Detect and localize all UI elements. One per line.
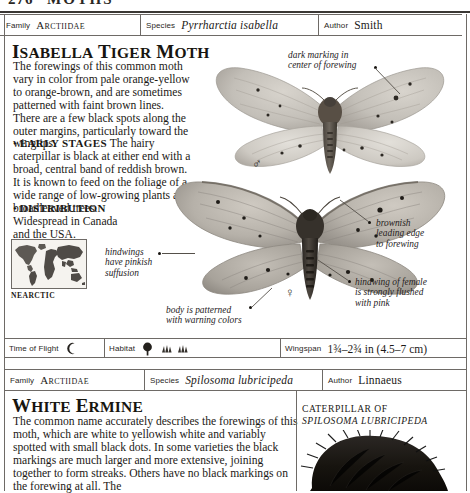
- headline2-cap-1: W: [12, 395, 31, 416]
- headline2-rest-1: HITE: [31, 398, 71, 415]
- page-folio: 276: [8, 0, 34, 8]
- species-label: Species: [150, 376, 179, 385]
- annotation-dark-marking: dark marking in center of forewing: [288, 50, 356, 71]
- species-cell-1: Species Pyrrharctia isabella: [146, 15, 316, 35]
- map-region-label: NEARCTIC: [11, 291, 55, 300]
- annotation-line: brownish: [376, 218, 424, 228]
- wingspan-cell: Wingspan 1¾–2¾ in (4.5–7 cm): [285, 339, 427, 358]
- wingspan-label: Wingspan: [285, 344, 321, 353]
- annotation-hindwings-pinkish: hindwings have pinkish suffusion: [105, 247, 152, 278]
- annotation-brownish-edge: brownish leading edge to forewing: [376, 218, 424, 249]
- description-paragraph-2: The common name accurately describes the…: [13, 416, 299, 493]
- annotation-line: center of forewing: [288, 60, 356, 70]
- caption-column-rule: [296, 391, 297, 491]
- annotation-line: leading edge: [376, 228, 424, 238]
- leader-line-hindwings: [162, 253, 195, 254]
- world-map-icon: [12, 240, 86, 288]
- species-header-strip-2: Family Arctiidae Species Spilosoma lubri…: [4, 369, 466, 391]
- family-value: Arctiidae: [40, 374, 89, 386]
- time-of-flight-label: Time of Flight: [9, 344, 59, 353]
- headline2-rest-2: RMINE: [89, 398, 143, 415]
- caterpillar-caption-line1: CATERPILLAR OF: [302, 403, 428, 415]
- headline-cap-2: T: [98, 41, 111, 62]
- leader-line-body-warning: [250, 286, 276, 310]
- wingspan-value: 1¾–2¾ in (4.5–7 cm): [327, 343, 427, 355]
- headline-rest-2: IGER: [111, 44, 151, 61]
- author-label: Author: [324, 21, 348, 30]
- family-value: Arctiidae: [36, 19, 85, 31]
- male-moth-illustration: [196, 60, 458, 184]
- annotation-body-warning: body is patterned with warning colors: [166, 305, 242, 326]
- databar-divider: [104, 339, 105, 358]
- bullet-glyph-icon: •: [13, 137, 17, 149]
- caterpillar-illustration: [300, 430, 470, 491]
- author-value: Smith: [354, 19, 382, 31]
- annotation-line: with pink: [355, 298, 427, 308]
- annotation-line: hindwing of female: [355, 277, 427, 287]
- headline-rest-1: SABELLA: [20, 44, 94, 61]
- leader-line-dark-marking: [370, 66, 404, 100]
- leader-line-brownish-edge: [338, 198, 372, 226]
- strip-divider: [318, 15, 319, 36]
- headline-cap-3: M: [156, 41, 174, 62]
- header-rule: [0, 11, 470, 13]
- annotation-line: to forewing: [376, 239, 424, 249]
- family-label: Family: [10, 376, 34, 385]
- caterpillar-caption-line2: SPILOSOMA LUBRICIPEDA: [302, 415, 428, 427]
- distribution-map: [11, 239, 87, 289]
- annotation-line: suffusion: [105, 268, 152, 278]
- headline-cap-1: I: [12, 41, 20, 62]
- bullet-glyph-icon: •: [13, 202, 17, 214]
- annotation-line: with warning colors: [166, 315, 242, 325]
- annotation-line: hindwings: [105, 247, 152, 257]
- author-cell-2: Author Linnaeus: [328, 370, 462, 390]
- species-data-bar-1: Time of Flight Habitat Wingspan 1¾–2¾ in…: [4, 338, 466, 358]
- grassland-icon: [161, 344, 173, 353]
- annotation-line: is strongly flushed: [355, 287, 427, 297]
- headline2-cap-2: E: [76, 395, 89, 416]
- page-edge-rule: [466, 14, 467, 491]
- family-label: Family: [6, 21, 30, 30]
- grassland-icon: [177, 344, 189, 353]
- annotation-line: have pinkish: [105, 257, 152, 267]
- annotation-female-hindwing: hindwing of female is strongly flushed w…: [355, 277, 427, 308]
- female-symbol: ♀: [285, 286, 295, 299]
- crescent-moon-icon: [65, 342, 77, 355]
- headline-rest-3: OTH: [174, 44, 209, 61]
- leader-line-female-hindwing: [316, 258, 352, 284]
- early-stages-heading: EARLY STAGES: [20, 137, 107, 149]
- species-label: Species: [146, 21, 175, 30]
- habitat-label: Habitat: [109, 344, 135, 353]
- strip-divider: [140, 15, 141, 36]
- strip-divider: [144, 370, 145, 391]
- running-head-title: MOTHS: [47, 0, 114, 8]
- distribution-text: Widespread in Canada and the USA.: [13, 215, 117, 241]
- page-running-head: 276 MOTHS: [0, 0, 470, 10]
- species-cell-2: Species Spilosoma lubricipeda: [150, 370, 320, 390]
- caterpillar-caption: CATERPILLAR OF SPILOSOMA LUBRICIPEDA: [302, 403, 428, 426]
- time-of-flight-cell: Time of Flight: [9, 339, 77, 358]
- habitat-cell: Habitat: [109, 339, 189, 358]
- databar-divider: [280, 339, 281, 358]
- broadleaf-tree-icon: [141, 342, 154, 356]
- species-value: Pyrrharctia isabella: [181, 19, 278, 31]
- family-cell-2: Family Arctiidae: [10, 370, 144, 390]
- page-left-rule: [4, 14, 5, 491]
- annotation-line: dark marking in: [288, 50, 356, 60]
- author-label: Author: [328, 376, 352, 385]
- distribution-heading: DISTRIBUTION: [20, 202, 106, 214]
- family-cell-1: Family Arctiidae: [6, 15, 140, 35]
- author-cell-1: Author Smith: [324, 15, 458, 35]
- male-symbol: ♂: [252, 157, 262, 170]
- distribution-block: • DISTRIBUTION Widespread in Canada and …: [13, 202, 133, 242]
- species-value: Spilosoma lubricipeda: [185, 374, 293, 386]
- strip-divider: [322, 370, 323, 391]
- species-header-strip-1: Family Arctiidae Species Pyrrharctia isa…: [0, 14, 462, 36]
- annotation-dot: [158, 252, 161, 255]
- page-title-2: WHITE ERMINE: [12, 395, 143, 417]
- author-value: Linnaeus: [358, 374, 402, 386]
- annotation-line: body is patterned: [166, 305, 242, 315]
